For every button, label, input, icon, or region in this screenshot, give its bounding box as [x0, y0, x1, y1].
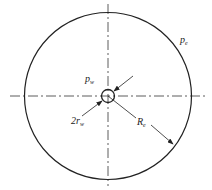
diagram-canvas: pe pw 2rw Re	[0, 0, 212, 190]
outer-radius-arrow	[151, 125, 173, 144]
outer-radius-leader	[108, 96, 136, 118]
label-outer-pressure: pe	[179, 34, 188, 46]
well-diagram: pe pw 2rw Re	[0, 0, 212, 190]
well-diameter-arrow-upper	[114, 76, 133, 91]
label-well-diameter: 2rw	[71, 115, 84, 127]
label-outer-radius: Re	[136, 116, 146, 128]
well-diameter-arrow-lower	[82, 101, 102, 116]
label-well-pressure: pw	[84, 73, 94, 85]
